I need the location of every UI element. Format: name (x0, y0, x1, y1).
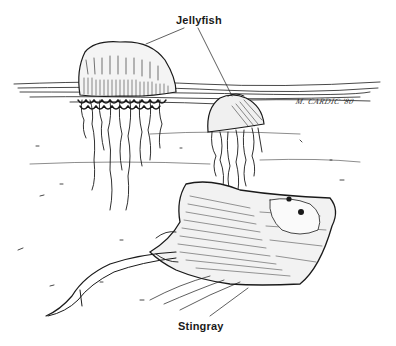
stingray (46, 182, 336, 316)
jellyfish-leader-line-2 (198, 28, 232, 96)
bell-jellyfish (208, 94, 264, 190)
horizon-lines (30, 132, 360, 164)
man-o-war-jellyfish (78, 42, 176, 210)
jellyfish-leader-line-1 (146, 28, 184, 44)
artist-signature: M. CARDIC '80 (295, 97, 355, 106)
cropped-caption-fragment (22, 0, 122, 2)
jellyfish-label: Jellyfish (176, 14, 222, 26)
stingray-label: Stingray (178, 320, 224, 332)
jellyfish-stingray-drawing (0, 0, 396, 346)
illustration: Jellyfish Stingray M. CARDIC '80 (0, 0, 396, 346)
